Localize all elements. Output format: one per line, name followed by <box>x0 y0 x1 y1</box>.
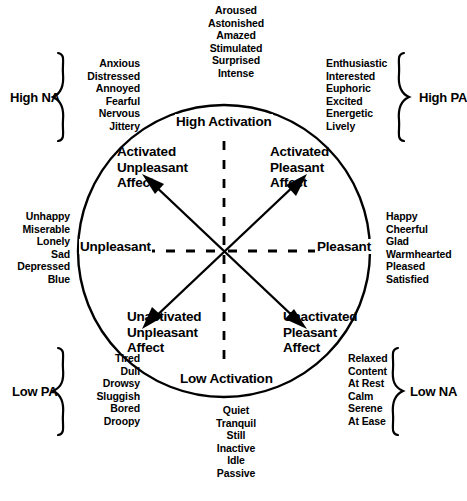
quadrant-label-unactivated-unpleasant-affect: Unactivated Unpleasant Affect <box>127 309 201 356</box>
descriptor-word: Fearful <box>62 95 140 108</box>
descriptor-word: Interested <box>326 70 418 83</box>
descriptor-word: Blue <box>8 273 70 286</box>
descriptor-list-high-pa: Enthusiastic Interested Euphoric Excited… <box>326 57 418 133</box>
descriptor-word: Satisfied <box>386 273 460 286</box>
brace-label-low-pa: Low PA <box>12 384 58 399</box>
descriptor-word: Energetic <box>326 107 418 120</box>
descriptor-word: Annoyed <box>62 82 140 95</box>
quadrant-label-line: Affect <box>270 175 329 191</box>
quadrant-label-line: Unpleasant <box>127 325 201 341</box>
axis-label-high-activation: High Activation <box>175 114 273 129</box>
descriptor-word: Tranquil <box>181 417 291 430</box>
quadrant-label-line: Unpleasant <box>117 160 188 176</box>
descriptor-word: Glad <box>386 235 460 248</box>
descriptor-list-unpleasant: Unhappy Miserable Lonely Sad Depressed B… <box>8 210 70 286</box>
descriptor-word: Droopy <box>62 415 140 428</box>
descriptor-word: Anxious <box>62 57 140 70</box>
descriptor-word: Idle <box>181 454 291 467</box>
descriptor-list-low-activation: Quiet Tranquil Still Inactive Idle Passi… <box>181 404 291 480</box>
descriptor-word: Drowsy <box>62 377 140 390</box>
descriptor-word: Still <box>181 429 291 442</box>
quadrant-label-line: Affect <box>127 340 201 356</box>
descriptor-word: Distressed <box>62 70 140 83</box>
descriptor-word: Content <box>348 365 424 378</box>
descriptor-word: Miserable <box>8 223 70 236</box>
quadrant-label-unactivated-pleasant-affect: Unactivated Pleasant Affect <box>283 309 357 356</box>
quadrant-label-line: Activated <box>117 144 188 160</box>
descriptor-word: Serene <box>348 402 424 415</box>
descriptor-word: Intense <box>181 67 291 80</box>
descriptor-word: Lonely <box>8 235 70 248</box>
descriptor-word: Sluggish <box>62 390 140 403</box>
descriptor-word: Happy <box>386 210 460 223</box>
descriptor-word: Inactive <box>181 442 291 455</box>
descriptor-word: Pleased <box>386 260 460 273</box>
quadrant-label-line: Affect <box>117 175 188 191</box>
descriptor-list-high-na: Anxious Distressed Annoyed Fearful Nervo… <box>62 57 140 133</box>
descriptor-word: Passive <box>181 467 291 480</box>
quadrant-label-line: Unactivated <box>283 309 357 325</box>
brace-label-low-na: Low NA <box>410 384 457 399</box>
descriptor-word: Dull <box>62 365 140 378</box>
quadrant-label-line: Activated <box>270 144 329 160</box>
descriptor-word: Jittery <box>62 120 140 133</box>
descriptor-word: Bored <box>62 402 140 415</box>
descriptor-word: Lively <box>326 120 418 133</box>
descriptor-word: At Ease <box>348 415 424 428</box>
brace-label-high-pa: High PA <box>419 90 467 105</box>
descriptor-word: Stimulated <box>181 42 291 55</box>
descriptor-word: Aroused <box>181 4 291 17</box>
descriptor-word: Excited <box>326 95 418 108</box>
brace-label-high-na: High NA <box>10 90 60 105</box>
quadrant-label-activated-pleasant-affect: Activated Pleasant Affect <box>270 144 329 191</box>
descriptor-word: Amazed <box>181 29 291 42</box>
quadrant-label-line: Pleasant <box>283 325 357 341</box>
descriptor-word: Unhappy <box>8 210 70 223</box>
descriptor-word: Surprised <box>181 54 291 67</box>
descriptor-word: Quiet <box>181 404 291 417</box>
axis-label-pleasant: Pleasant <box>316 239 372 254</box>
descriptor-word: Cheerful <box>386 223 460 236</box>
descriptor-word: Relaxed <box>348 352 424 365</box>
descriptor-list-low-pa: Tired Dull Drowsy Sluggish Bored Droopy <box>62 352 140 428</box>
axis-label-unpleasant: Unpleasant <box>79 239 152 254</box>
descriptor-word: Sad <box>8 248 70 261</box>
quadrant-label-line: Affect <box>283 340 357 356</box>
descriptor-list-pleasant: Happy Cheerful Glad Warmhearted Pleased … <box>386 210 460 286</box>
descriptor-word: Depressed <box>8 260 70 273</box>
descriptor-word: Enthusiastic <box>326 57 418 70</box>
descriptor-word: Nervous <box>62 107 140 120</box>
descriptor-word: Euphoric <box>326 82 418 95</box>
descriptor-word: Warmhearted <box>386 248 460 261</box>
quadrant-label-line: Unactivated <box>127 309 201 325</box>
quadrant-label-line: Pleasant <box>270 160 329 176</box>
descriptor-list-high-activation: Aroused Astonished Amazed Stimulated Sur… <box>181 4 291 80</box>
axis-label-low-activation: Low Activation <box>179 371 274 386</box>
quadrant-label-activated-unpleasant-affect: Activated Unpleasant Affect <box>117 144 188 191</box>
descriptor-word: Astonished <box>181 17 291 30</box>
